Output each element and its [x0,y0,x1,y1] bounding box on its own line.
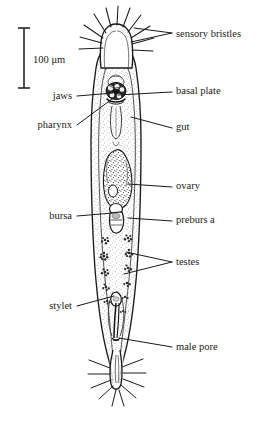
scale-bar [18,28,30,88]
label-sensory-bristles: sensory bristles [176,29,241,40]
worm-body-group [79,6,154,406]
anatomical-figure: 100 μm sensory bristlesbasal plategutova… [0,0,262,422]
head-region [79,6,154,70]
label-bursa: bursa [0,211,72,222]
label-pharynx: pharynx [0,120,72,131]
tail-region [88,350,146,406]
label-preburs a: preburs a [176,215,215,226]
label-stylet: stylet [0,301,72,312]
label-ovary: ovary [176,181,200,192]
scale-bar-label: 100 μm [33,54,65,65]
label-basal-plate: basal plate [176,86,221,97]
label-jaws: jaws [0,91,72,102]
preburs a-and-bursa [110,204,124,234]
label-gut: gut [176,122,189,133]
label-male-pore: male pore [176,342,218,353]
label-testes: testes [176,257,199,268]
